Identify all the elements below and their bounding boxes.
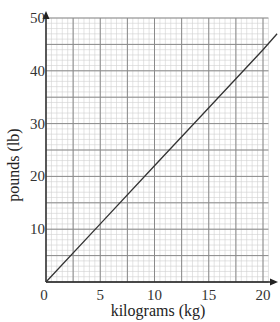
- y-tick-label: 50: [30, 10, 45, 26]
- major-grid: [46, 18, 268, 282]
- x-axis-label: kilograms (kg): [111, 302, 206, 320]
- y-tick-labels: 1020304050: [30, 10, 45, 237]
- y-tick-label: 30: [30, 116, 45, 132]
- y-tick-label: 40: [30, 63, 45, 79]
- axes: [43, 11, 279, 286]
- y-axis-label: pounds (lb): [5, 128, 23, 201]
- x-tick-label: 10: [147, 287, 162, 303]
- x-tick-label: 5: [97, 287, 105, 303]
- x-axis-arrow-icon: [270, 279, 278, 286]
- x-tick-labels: 05101520: [40, 287, 270, 303]
- conversion-chart: 05101520 1020304050 kilograms (kg) pound…: [0, 0, 280, 322]
- y-tick-label: 20: [30, 168, 45, 184]
- x-tick-label: 15: [201, 287, 216, 303]
- y-tick-label: 10: [30, 221, 45, 237]
- x-tick-label: 0: [40, 287, 48, 303]
- x-tick-label: 20: [256, 287, 271, 303]
